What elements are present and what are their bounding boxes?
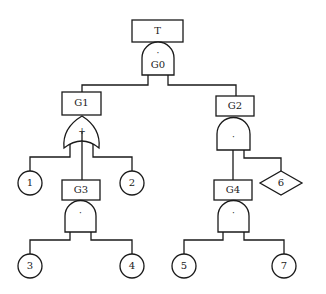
and-gate-G3: · bbox=[65, 201, 96, 233]
svg-text:2: 2 bbox=[129, 177, 135, 188]
svg-text:G3: G3 bbox=[74, 184, 88, 195]
svg-text:1: 1 bbox=[27, 177, 33, 188]
svg-text:G0: G0 bbox=[151, 59, 165, 70]
basic-event-4: 4 bbox=[120, 254, 144, 278]
basic-event-5: 5 bbox=[172, 254, 196, 278]
svg-text:G2: G2 bbox=[228, 100, 242, 111]
top-event-T: T bbox=[132, 20, 183, 42]
and-gate-G4: · bbox=[218, 201, 249, 233]
basic-event-3: 3 bbox=[18, 254, 42, 278]
svg-text:·: · bbox=[79, 208, 82, 218]
gate-label-G3: G3 bbox=[62, 180, 100, 200]
gate-label-G1: G1 bbox=[62, 92, 101, 115]
basic-event-1: 1 bbox=[18, 171, 42, 195]
connector-G0-children bbox=[82, 75, 236, 96]
gate-label-G2: G2 bbox=[216, 96, 254, 116]
svg-text:6: 6 bbox=[278, 177, 284, 188]
gate-label-G4: G4 bbox=[214, 180, 252, 200]
basic-event-7: 7 bbox=[272, 254, 296, 278]
basic-event-2: 2 bbox=[120, 171, 144, 195]
svg-text:4: 4 bbox=[129, 260, 135, 271]
and-gate-G2: · bbox=[217, 118, 250, 151]
svg-text:·: · bbox=[157, 48, 160, 58]
fault-tree-diagram: T · G0 G1 + 1 2 G3 bbox=[0, 0, 326, 294]
connector-G3-children bbox=[30, 232, 132, 254]
svg-text:T: T bbox=[154, 25, 161, 36]
connector-G4-children bbox=[184, 232, 284, 254]
svg-text:G1: G1 bbox=[74, 97, 88, 108]
svg-text:5: 5 bbox=[181, 260, 187, 271]
svg-text:3: 3 bbox=[27, 260, 33, 271]
undeveloped-event-6: 6 bbox=[260, 171, 302, 195]
svg-text:G4: G4 bbox=[226, 184, 240, 195]
svg-text:7: 7 bbox=[281, 260, 287, 271]
and-gate-G0: · G0 bbox=[142, 42, 174, 75]
svg-text:·: · bbox=[232, 132, 235, 142]
svg-text:·: · bbox=[232, 208, 235, 218]
